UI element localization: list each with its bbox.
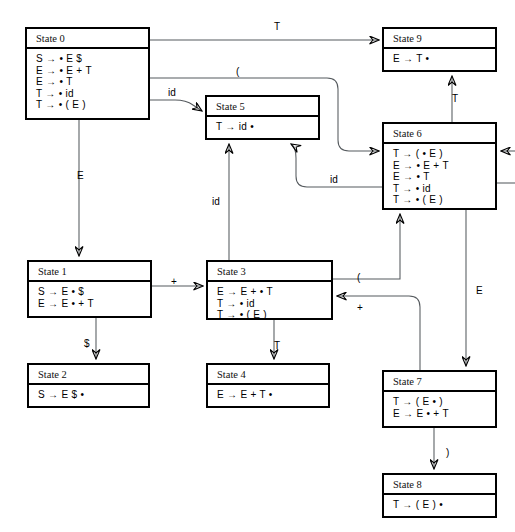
production-item: E → • T — [36, 76, 148, 88]
transition-label-t1-2: $ — [84, 338, 90, 349]
transition-label-t0-5: id — [168, 87, 176, 98]
production-item: E → E + T • — [217, 389, 328, 401]
state-title: State 6 — [384, 124, 495, 144]
transition-label-t6-9: T — [452, 93, 458, 104]
transition-label-t7-8: ) — [446, 447, 449, 458]
state-title: State 0 — [27, 29, 148, 49]
state-items: E → E + T • — [208, 385, 328, 405]
state-box-state-2[interactable]: State 2 S → E $ • — [27, 363, 150, 408]
state-items: T → id • — [207, 117, 318, 137]
transition-label-t7-3: + — [357, 302, 363, 313]
edge-state0-state5 — [150, 100, 202, 111]
transition-label-t0-6: ( — [236, 66, 239, 77]
production-item: S → E • $ — [38, 286, 150, 298]
production-item: E → • E + T — [393, 160, 495, 172]
state-items: E → T • — [384, 49, 495, 69]
transition-label-t0-1: E — [77, 170, 84, 181]
production-item: T → • ( E ) — [36, 99, 148, 111]
production-item: T → • id — [393, 183, 495, 195]
state-box-state-1[interactable]: State 1 S → E • $ E → E • + T — [27, 260, 152, 318]
state-title: State 9 — [384, 29, 495, 49]
transition-label-t6-7: E — [476, 285, 483, 296]
production-item: T → ( • E ) — [393, 148, 495, 160]
transition-label-t3-6: ( — [357, 272, 360, 283]
page-header-fragment — [0, 0, 515, 14]
transition-label-t0-9: T — [274, 21, 280, 32]
production-item: T → ( E ) • — [393, 499, 495, 511]
state-box-state-0[interactable]: State 0 S → • E $ E → • E + T E → • T T … — [25, 27, 150, 120]
edge-state7-state3 — [337, 296, 420, 370]
transition-label-t3-5: id — [212, 196, 220, 207]
production-item: E → • T — [393, 171, 495, 183]
production-item: E → • E + T — [36, 65, 148, 77]
state-title: State 4 — [208, 365, 328, 385]
production-item: T → • ( E ) — [393, 194, 495, 206]
edge-state3-state6 — [333, 214, 400, 279]
state-items: T → ( E • ) E → E • + T — [384, 392, 495, 423]
production-item: T → • id — [36, 88, 148, 100]
state-title: State 5 — [207, 97, 318, 117]
state-title: State 1 — [29, 262, 150, 282]
state-box-state-5[interactable]: State 5 T → id • — [205, 95, 320, 140]
state-title: State 8 — [384, 475, 495, 495]
state-items: S → E • $ E → E • + T — [29, 282, 150, 313]
state-items: S → • E $ E → • E + T E → • T T → • id T… — [27, 49, 148, 115]
production-item: T → ( E • ) — [393, 396, 495, 408]
state-box-state-3[interactable]: State 3 E → E + • T T → • id T → • ( E ) — [206, 260, 333, 320]
state-box-state-7[interactable]: State 7 T → ( E • ) E → E • + T — [382, 370, 497, 428]
production-item: S → • E $ — [36, 53, 148, 65]
state-items: E → E + • T T → • id T → • ( E ) — [208, 282, 331, 325]
production-item: T → • ( E ) — [217, 309, 331, 321]
state-items: T → ( • E ) E → • E + T E → • T T → • id… — [384, 144, 495, 210]
transition-label-t6-5: id — [330, 174, 338, 185]
production-item: E → E • + T — [38, 298, 150, 310]
production-item: E → T • — [393, 53, 495, 65]
state-items: T → ( E ) • — [384, 495, 495, 515]
state-title: State 2 — [29, 365, 148, 385]
state-title: State 3 — [208, 262, 331, 282]
production-item: T → • id — [217, 298, 331, 310]
production-item: S → E $ • — [38, 389, 148, 401]
state-box-state-4[interactable]: State 4 E → E + T • — [206, 363, 330, 408]
state-title: State 7 — [384, 372, 495, 392]
production-item: T → id • — [216, 121, 318, 133]
state-box-state-6[interactable]: State 6 T → ( • E ) E → • E + T E → • T … — [382, 122, 497, 210]
production-item: E → E • + T — [393, 408, 495, 420]
state-items: S → E $ • — [29, 385, 148, 405]
transition-label-t3-4: T — [274, 340, 280, 351]
state-box-state-8[interactable]: State 8 T → ( E ) • — [382, 473, 497, 518]
transition-label-t1-3: + — [171, 276, 177, 287]
state-box-state-9[interactable]: State 9 E → T • — [382, 27, 497, 72]
production-item: E → E + • T — [217, 286, 331, 298]
